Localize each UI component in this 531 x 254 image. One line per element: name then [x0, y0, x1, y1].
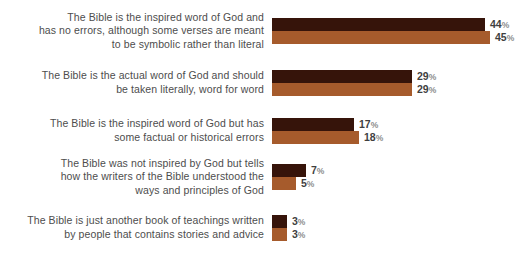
category-label: The Bible is the actual word of God and …	[0, 69, 272, 96]
bar-series-2[interactable]	[272, 228, 287, 241]
bar-series-1[interactable]	[272, 70, 412, 83]
bar-pair-top: 44%	[272, 18, 509, 31]
bar-pair-bottom: 3%	[272, 228, 305, 241]
bar-series-1[interactable]	[272, 164, 306, 177]
bar-series-1[interactable]	[272, 18, 485, 31]
chart-row: The Bible was not inspired by God but te…	[0, 156, 531, 198]
bar-group: 44% 45%	[272, 18, 531, 44]
bar-pair-top: 29%	[272, 70, 436, 83]
bar-chart: The Bible is the inspired word of God an…	[0, 0, 531, 254]
bar-group: 7% 5%	[272, 164, 531, 190]
bar-pair-bottom: 29%	[272, 83, 436, 96]
bar-value-series-2: 5%	[301, 177, 314, 191]
bar-series-2[interactable]	[272, 83, 412, 96]
category-label: The Bible was not inspired by God but te…	[0, 157, 272, 198]
bar-pair-top: 3%	[272, 215, 305, 228]
bar-value-series-1: 44%	[490, 18, 509, 32]
category-label: The Bible is the inspired word of God bu…	[0, 117, 272, 144]
bar-pair-top: 7%	[272, 164, 324, 177]
bar-series-1[interactable]	[272, 215, 287, 228]
bar-group: 3% 3%	[272, 215, 531, 241]
bar-pair-bottom: 5%	[272, 177, 314, 190]
bar-series-2[interactable]	[272, 31, 490, 44]
bar-value-series-1: 3%	[292, 215, 305, 229]
bar-pair-bottom: 45%	[272, 31, 514, 44]
bar-pair-top: 17%	[272, 118, 378, 131]
bar-group: 29% 29%	[272, 70, 531, 96]
chart-row: The Bible is the inspired word of God an…	[0, 10, 531, 52]
bar-value-series-1: 29%	[417, 70, 436, 84]
category-label: The Bible is just another book of teachi…	[0, 214, 272, 241]
chart-row: The Bible is the actual word of God and …	[0, 62, 531, 104]
bar-value-series-2: 3%	[292, 228, 305, 242]
bar-value-series-2: 29%	[417, 83, 436, 97]
category-label: The Bible is the inspired word of God an…	[0, 11, 272, 52]
bar-value-series-1: 7%	[311, 164, 324, 178]
bar-value-series-2: 18%	[364, 131, 383, 145]
bar-group: 17% 18%	[272, 118, 531, 144]
bar-value-series-1: 17%	[359, 118, 378, 132]
bar-pair-bottom: 18%	[272, 131, 383, 144]
bar-series-1[interactable]	[272, 118, 354, 131]
bar-series-2[interactable]	[272, 177, 296, 190]
bar-series-2[interactable]	[272, 131, 359, 144]
bar-value-series-2: 45%	[495, 31, 514, 45]
chart-row: The Bible is just another book of teachi…	[0, 207, 531, 249]
chart-row: The Bible is the inspired word of God bu…	[0, 110, 531, 152]
